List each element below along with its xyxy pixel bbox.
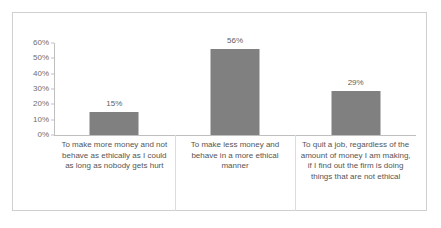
bar-3[interactable]	[331, 91, 380, 135]
bar-group-2: 56%	[175, 43, 296, 135]
y-axis-tick-label: 20%	[33, 100, 54, 108]
x-axis-category-label-3: To quit a job, regardless of the amount …	[295, 140, 416, 182]
y-axis-tick-label: 0%	[37, 131, 54, 139]
bar-1[interactable]	[90, 112, 139, 135]
chart-frame: 60% 50% 40% 30% 20% 10% 0% 15% 56% 29% T…	[12, 12, 427, 211]
bar-value-label-1: 15%	[106, 100, 122, 108]
y-axis-tick-label: 40%	[33, 70, 54, 78]
bar-value-label-2: 56%	[227, 37, 243, 45]
x-axis-category-label-1: To make more money and not behave as eth…	[54, 140, 175, 172]
plot-area: 60% 50% 40% 30% 20% 10% 0% 15% 56% 29% T…	[54, 43, 416, 135]
bar-group-3: 29%	[295, 43, 416, 135]
bar-value-label-3: 29%	[348, 79, 364, 87]
x-axis-category-label-2: To make less money and behave in a more …	[175, 140, 296, 172]
bar-group-1: 15%	[54, 43, 175, 135]
y-axis-tick-label: 50%	[33, 54, 54, 62]
y-axis-tick-label: 10%	[33, 116, 54, 124]
bar-2[interactable]	[210, 49, 259, 135]
y-axis-tick-label: 60%	[33, 39, 54, 47]
x-axis-line	[54, 135, 416, 136]
y-axis-tick-label: 30%	[33, 85, 54, 93]
